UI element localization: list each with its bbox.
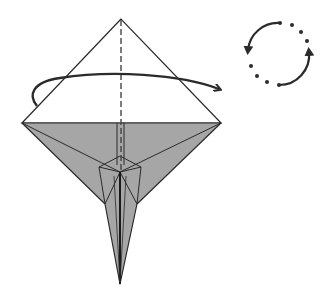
diagram-canvas <box>0 0 323 296</box>
origami-diagram: Origami step: turn over <box>0 0 323 296</box>
turn-over-icon <box>248 21 309 87</box>
